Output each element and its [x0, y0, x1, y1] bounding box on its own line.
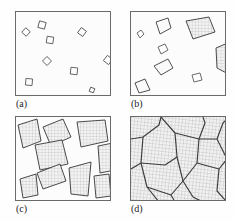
panel-d-frame [130, 116, 226, 201]
panel-d-caption: (d) [131, 203, 143, 214]
nucleus-crystal [103, 55, 111, 64]
grain [135, 79, 150, 93]
grain [156, 18, 171, 34]
grain [154, 59, 173, 75]
nucleus-crystal [70, 67, 77, 74]
grain-group [135, 17, 226, 93]
panel-c-frame [15, 116, 111, 201]
grain [158, 44, 168, 54]
figure-solidification-grain-growth: (a) (b) [0, 0, 236, 221]
nucleus-crystal [25, 78, 32, 85]
nucleus-crystal [22, 28, 30, 36]
grain-hatched [216, 42, 226, 76]
panel-a-frame [15, 11, 111, 96]
grain-group [18, 119, 111, 198]
panel-a-canvas [16, 12, 111, 96]
panel-b-caption: (b) [131, 98, 143, 109]
panel-d-canvas [131, 117, 226, 201]
nucleus-crystal [46, 36, 53, 43]
panel-b-early-growth: (b) [130, 11, 226, 96]
grain [192, 73, 202, 82]
nuclei-group [22, 21, 111, 93]
grain-fill-background [131, 117, 226, 201]
nucleus-crystal [42, 56, 51, 65]
panel-c-late-growth: (c) [15, 116, 111, 201]
panel-a-caption: (a) [16, 98, 27, 109]
panel-a-nucleation: (a) [15, 11, 111, 96]
nucleus-crystal [89, 87, 95, 93]
panel-c-canvas [16, 117, 111, 201]
panel-c-caption: (c) [16, 203, 27, 214]
grain-hatched [94, 174, 111, 198]
grain [137, 30, 144, 38]
grain-hatched [77, 120, 108, 147]
grain-hatched [20, 174, 38, 198]
panel-b-canvas [131, 12, 226, 96]
grain-hatched [186, 17, 215, 39]
nucleus-crystal [38, 21, 46, 29]
panel-d-grain-structure: (d) [130, 116, 226, 201]
grain-hatched [18, 119, 41, 148]
grain-hatched [69, 162, 91, 196]
grain-hatched [35, 140, 68, 170]
grain-hatched [98, 143, 111, 173]
panel-b-frame [130, 11, 226, 96]
nucleus-crystal [78, 28, 87, 37]
